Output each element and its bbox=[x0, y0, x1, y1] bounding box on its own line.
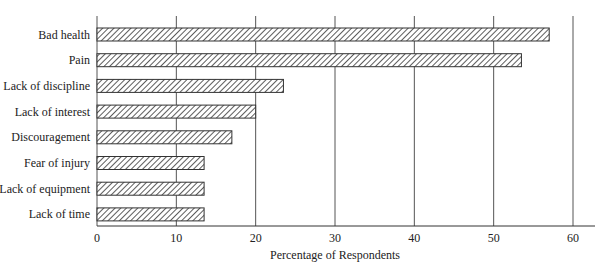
bar bbox=[97, 208, 204, 221]
bar-chart: Bad healthPainLack of disciplineLack of … bbox=[0, 0, 606, 271]
bar bbox=[97, 105, 256, 118]
bar bbox=[97, 54, 521, 67]
category-label: Lack of time bbox=[29, 207, 90, 221]
bar bbox=[97, 157, 204, 170]
bar bbox=[97, 28, 549, 41]
x-tick-label: 40 bbox=[408, 231, 420, 245]
x-tick-label: 10 bbox=[170, 231, 182, 245]
category-label: Lack of interest bbox=[15, 105, 90, 119]
bar bbox=[97, 131, 232, 144]
bar bbox=[97, 79, 283, 92]
category-label: Bad health bbox=[38, 28, 90, 42]
x-tick-label: 50 bbox=[488, 231, 500, 245]
x-axis-title: Percentage of Respondents bbox=[270, 248, 400, 262]
category-label: Discouragement bbox=[11, 130, 90, 144]
category-label: Lack of discipline bbox=[3, 79, 90, 93]
category-label: Fear of injury bbox=[24, 156, 90, 170]
chart-svg bbox=[0, 0, 606, 271]
category-label: Lack of equipment bbox=[0, 182, 90, 196]
x-tick-label: 60 bbox=[567, 231, 579, 245]
bars bbox=[97, 28, 549, 221]
x-tick-label: 20 bbox=[250, 231, 262, 245]
category-label: Pain bbox=[69, 53, 90, 67]
x-tick-label: 0 bbox=[94, 231, 100, 245]
bar bbox=[97, 182, 204, 195]
x-tick-label: 30 bbox=[329, 231, 341, 245]
